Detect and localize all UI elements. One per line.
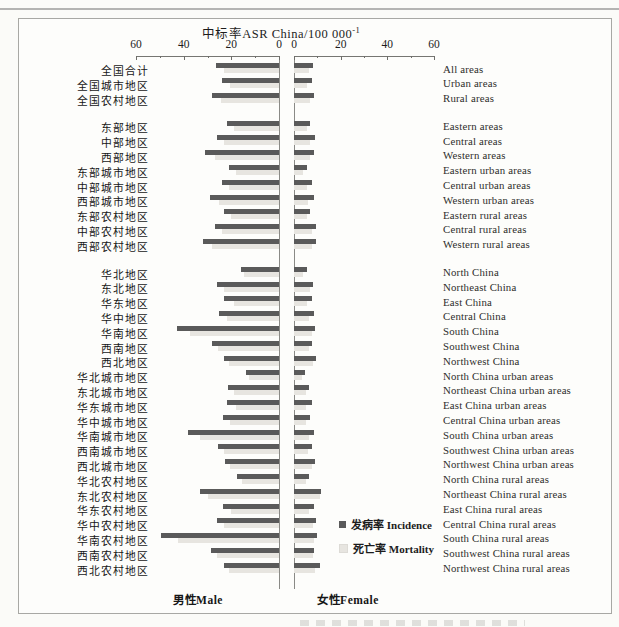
row-label-en: South China urban areas <box>443 429 553 441</box>
male-mortality-bar <box>218 346 279 351</box>
chart-row: 中部地区Central areas <box>19 133 611 148</box>
axis-tick <box>294 56 295 60</box>
female-bar-zone <box>294 207 434 222</box>
female-mortality-bar <box>294 272 303 277</box>
male-mortality-bar <box>230 420 279 425</box>
female-bar-zone <box>294 339 434 354</box>
row-label-en: All areas <box>443 63 483 75</box>
female-mortality-bar <box>294 214 307 219</box>
row-label-en: Northwest China <box>443 355 519 367</box>
axis-tick <box>184 56 185 60</box>
male-bar-zone <box>136 398 279 413</box>
chart-row: 全国农村地区Rural areas <box>19 91 611 106</box>
male-mortality-bar <box>231 214 279 219</box>
female-bar-zone <box>294 368 434 383</box>
legend: 发病率 Incidence 死亡率 Mortality <box>339 516 434 564</box>
axis-tick <box>160 56 161 58</box>
chart-row: 西南农村地区Southwest China rural areas <box>19 546 611 561</box>
male-bar-zone <box>136 413 279 428</box>
axis-tick-label: 40 <box>178 38 190 50</box>
row-label-en: Northwest China rural areas <box>443 562 570 574</box>
row-label-en: Central China <box>443 310 506 322</box>
row-label-en: North China urban areas <box>443 370 553 382</box>
chart-row: 华东地区East China <box>19 294 611 309</box>
female-mortality-bar <box>294 449 308 454</box>
legend-incidence-label: 发病率 Incidence <box>351 516 432 532</box>
male-bar-zone <box>136 487 279 502</box>
male-bar-zone <box>136 368 279 383</box>
row-label-en: East China rural areas <box>443 503 542 515</box>
row-label-zh: 全国农村地区 <box>19 92 149 108</box>
male-bar-zone <box>136 76 279 91</box>
male-bar-zone <box>136 457 279 472</box>
male-mortality-bar <box>244 272 279 277</box>
chart-row: 华北农村地区North China rural areas <box>19 472 611 487</box>
chart-row: 西北城市地区Northwest China urban areas <box>19 457 611 472</box>
mortality-swatch-icon <box>339 544 348 553</box>
axis-tick-label: 0 <box>291 38 297 50</box>
incidence-swatch-icon <box>339 521 346 528</box>
female-mortality-bar <box>294 331 312 336</box>
legend-mortality-label: 死亡率 Mortality <box>353 540 434 556</box>
row-label-en: Western areas <box>443 149 506 161</box>
female-mortality-bar <box>294 523 313 528</box>
chart-row: 西北农村地区Northwest China rural areas <box>19 561 611 576</box>
axis-tick <box>279 56 280 60</box>
female-mortality-bar <box>294 316 309 321</box>
male-bar-zone <box>136 118 279 133</box>
male-mortality-bar <box>200 435 279 440</box>
male-bar-zone <box>136 501 279 516</box>
female-mortality-bar <box>294 390 306 395</box>
row-label-en: Southwest China <box>443 340 519 352</box>
female-bar-zone <box>294 427 434 442</box>
chart-row: 西南城市地区Southwest China urban areas <box>19 442 611 457</box>
male-bar-zone <box>136 472 279 487</box>
row-label-en: Central China rural areas <box>443 518 556 530</box>
row-label-en: Urban areas <box>443 77 497 89</box>
female-mortality-bar <box>294 538 314 543</box>
female-mortality-bar <box>294 229 312 234</box>
female-mortality-bar <box>294 494 320 499</box>
chart-row: 华北地区North China <box>19 265 611 280</box>
axis-tick-label: 40 <box>382 38 394 50</box>
axis-tick <box>136 56 137 60</box>
female-bar-zone <box>294 133 434 148</box>
female-mortality-bar <box>294 568 315 573</box>
chart-row: 东北城市地区Northeast China urban areas <box>19 383 611 398</box>
chart-row: 西部农村地区Western rural areas <box>19 237 611 252</box>
male-bar-zone <box>136 207 279 222</box>
female-mortality-bar <box>294 83 307 88</box>
female-bar-zone <box>294 237 434 252</box>
female-bar-zone <box>294 383 434 398</box>
male-mortality-bar <box>222 229 279 234</box>
chart-row: 华中地区Central China <box>19 309 611 324</box>
row-label-en: Southwest China rural areas <box>443 547 570 559</box>
chart-row: 华南地区South China <box>19 324 611 339</box>
row-label-zh: 西部农村地区 <box>19 238 149 254</box>
male-mortality-bar <box>219 200 279 205</box>
female-bar-zone <box>294 91 434 106</box>
row-label-en: Eastern rural areas <box>443 209 527 221</box>
male-mortality-bar <box>224 523 279 528</box>
chart-row: 华南城市地区South China urban areas <box>19 427 611 442</box>
axis-tick-label: 60 <box>428 38 440 50</box>
male-bar-zone <box>136 148 279 163</box>
chart-row: 华中农村地区Central China rural areas <box>19 516 611 531</box>
legend-item-incidence: 发病率 Incidence <box>339 516 434 532</box>
female-mortality-bar <box>294 301 307 306</box>
male-mortality-bar <box>229 185 279 190</box>
female-bar-zone <box>294 398 434 413</box>
male-bar-zone <box>136 91 279 106</box>
male-panel-label: 男性Male <box>173 591 223 607</box>
female-bar-zone <box>294 353 434 368</box>
chart-row: 西北地区Northwest China <box>19 353 611 368</box>
male-bar-zone <box>136 531 279 546</box>
chart-rows: 全国合计All areas全国城市地区Urban areas全国农村地区Rura… <box>19 61 611 575</box>
female-bar-zone <box>294 178 434 193</box>
axis-tick <box>231 56 232 60</box>
female-mortality-bar <box>294 405 306 410</box>
male-bar-zone <box>136 178 279 193</box>
female-bar-zone <box>294 118 434 133</box>
axis-tick <box>387 56 388 60</box>
female-bar-zone <box>294 487 434 502</box>
